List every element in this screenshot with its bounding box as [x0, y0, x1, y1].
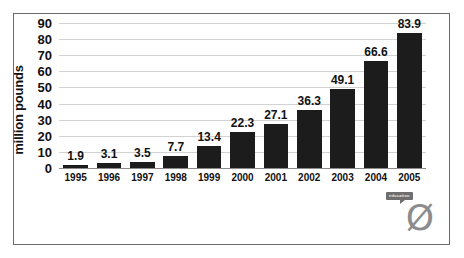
bar[interactable]	[297, 110, 322, 168]
x-axis-tick-label: 1996	[98, 172, 120, 183]
bar-group[interactable]: 83.9	[397, 23, 422, 168]
x-axis-tick-label: 2004	[365, 172, 387, 183]
y-axis-tick-label: 0	[45, 161, 52, 176]
x-axis-tick-label: 2003	[331, 172, 353, 183]
x-axis-tick-label: 1998	[165, 172, 187, 183]
x-axis-tick-label: 2002	[298, 172, 320, 183]
x-axis-tick-label: 2001	[265, 172, 287, 183]
y-axis-tick-label: 10	[38, 144, 52, 159]
chart-screenshot: million pounds 0102030405060708090 1.93.…	[0, 0, 464, 258]
bar-group[interactable]: 36.3	[297, 23, 322, 168]
y-axis-tick-label: 20	[38, 128, 52, 143]
bar-value-label: 7.7	[167, 140, 184, 154]
plot-area: 1.93.13.57.713.422.327.136.349.166.683.9	[59, 23, 426, 168]
bar-group[interactable]: 66.6	[364, 23, 389, 168]
bar[interactable]	[163, 156, 188, 168]
gridline	[59, 168, 426, 169]
chart-figure-frame: million pounds 0102030405060708090 1.93.…	[13, 13, 450, 245]
bar-value-label: 1.9	[67, 149, 84, 163]
bar-value-label: 36.3	[298, 94, 321, 108]
bar[interactable]	[264, 124, 289, 168]
x-axis-tick-label: 2005	[398, 172, 420, 183]
bar[interactable]	[197, 146, 222, 168]
bar[interactable]	[364, 61, 389, 168]
y-axis-tick-labels: 0102030405060708090	[14, 23, 54, 168]
bar-value-label: 49.1	[331, 73, 354, 87]
y-axis-tick-label: 30	[38, 112, 52, 127]
bar-value-label: 13.4	[197, 130, 220, 144]
bar[interactable]	[230, 132, 255, 168]
bar-group[interactable]: 3.1	[97, 23, 122, 168]
brand-logo: education Ø	[380, 192, 436, 238]
bar-value-label: 66.6	[364, 45, 387, 59]
bar-value-label: 22.3	[231, 116, 254, 130]
bar[interactable]	[63, 165, 88, 168]
x-axis-tick-labels: 1995199619971998199920002001200220032004…	[59, 172, 426, 190]
x-axis-tick-label: 1997	[131, 172, 153, 183]
bar-group[interactable]: 3.5	[130, 23, 155, 168]
bar[interactable]	[97, 163, 122, 168]
logo-slashed-circle-icon: Ø	[406, 200, 434, 236]
y-axis-tick-label: 40	[38, 96, 52, 111]
y-axis-tick-label: 70	[38, 48, 52, 63]
bar-value-label: 3.1	[101, 147, 118, 161]
bar-group[interactable]: 49.1	[330, 23, 355, 168]
bar-value-label: 3.5	[134, 146, 151, 160]
logo-tag-tail	[400, 200, 405, 204]
bar-group[interactable]: 27.1	[264, 23, 289, 168]
y-axis-tick-label: 60	[38, 64, 52, 79]
y-axis-tick-label: 50	[38, 80, 52, 95]
bar-series: 1.93.13.57.713.422.327.136.349.166.683.9	[59, 23, 426, 168]
bar[interactable]	[397, 33, 422, 168]
bar-group[interactable]: 22.3	[230, 23, 255, 168]
y-axis-tick-label: 80	[38, 32, 52, 47]
bar[interactable]	[130, 162, 155, 168]
x-axis-tick-label: 2000	[231, 172, 253, 183]
bar-value-label: 27.1	[264, 108, 287, 122]
bar[interactable]	[330, 89, 355, 168]
bar-value-label: 83.9	[398, 17, 421, 31]
bar-group[interactable]: 1.9	[63, 23, 88, 168]
x-axis-tick-label: 1995	[65, 172, 87, 183]
y-axis-tick-label: 90	[38, 16, 52, 31]
bar-group[interactable]: 13.4	[197, 23, 222, 168]
x-axis-tick-label: 1999	[198, 172, 220, 183]
bar-group[interactable]: 7.7	[163, 23, 188, 168]
